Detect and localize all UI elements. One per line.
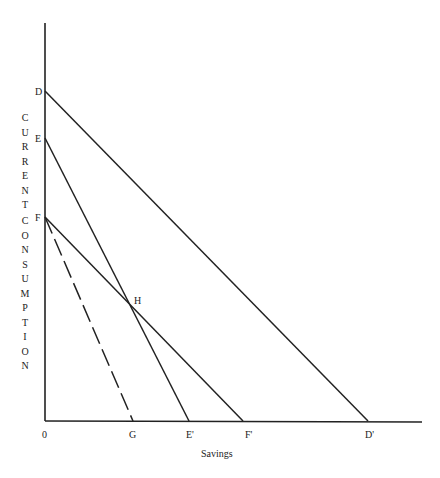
line-f-g-dashed [45, 217, 133, 421]
line-f-fprime [45, 217, 243, 421]
consumption-letter: T [19, 316, 31, 331]
label-origin: 0 [42, 429, 47, 440]
current-letter: C [19, 111, 31, 126]
current-letter: U [19, 126, 31, 141]
current-letter: R [19, 155, 31, 170]
consumption-letter: P [19, 301, 31, 316]
consumption-letter: U [19, 272, 31, 287]
label-eprime: E' [186, 429, 194, 440]
current-letter: N [19, 184, 31, 199]
diagram-canvas: D E F H 0 G E' F' D' Savings [0, 0, 440, 478]
label-e: E [35, 133, 41, 144]
current-letter: T [19, 198, 31, 213]
x-axis-label: Savings [201, 448, 233, 459]
y-axis-label-current: CURRENT [19, 111, 31, 213]
label-fprime: F' [245, 429, 253, 440]
label-g: G [129, 429, 136, 440]
line-d-dprime [45, 91, 368, 421]
label-dprime: D' [365, 429, 374, 440]
consumption-letter: O [19, 345, 31, 360]
consumption-letter: M [19, 287, 31, 302]
current-letter: R [19, 140, 31, 155]
x-axis [45, 421, 422, 422]
line-e-eprime [45, 138, 189, 421]
label-h: H [134, 295, 141, 306]
consumption-letter: N [19, 243, 31, 258]
current-letter: E [19, 169, 31, 184]
consumption-letter: N [19, 359, 31, 374]
label-d: D [35, 86, 42, 97]
consumption-letter: S [19, 258, 31, 273]
label-f: F [35, 212, 41, 223]
y-axis-label-consumption: CONSUMPTION [19, 214, 31, 374]
consumption-letter: I [19, 330, 31, 345]
consumption-letter: O [19, 229, 31, 244]
consumption-letter: C [19, 214, 31, 229]
